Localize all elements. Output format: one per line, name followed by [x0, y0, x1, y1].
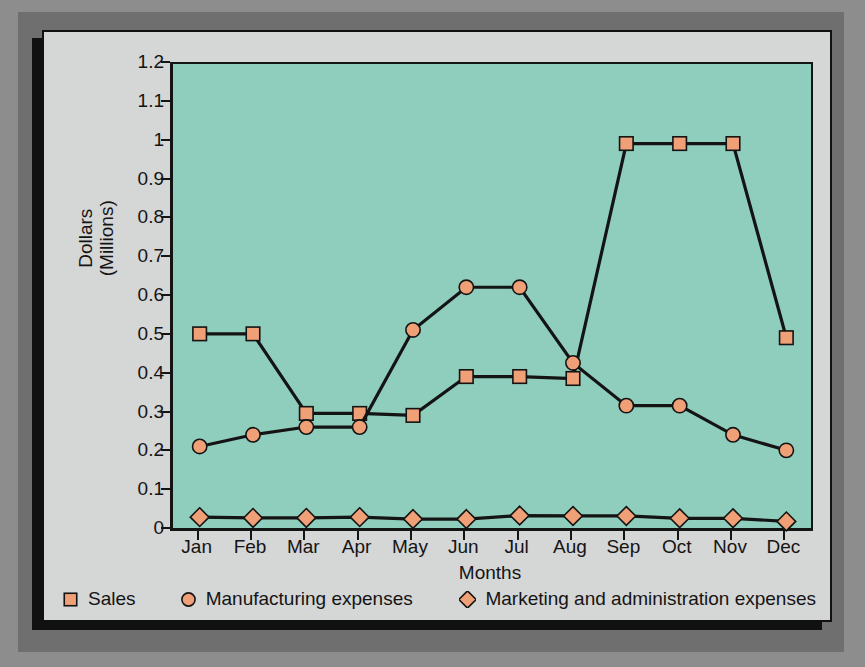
x-tick-label-mar: Mar — [273, 536, 333, 558]
x-axis-title: Months — [170, 562, 810, 584]
data-point-marker — [404, 510, 423, 529]
legend-label: Manufacturing expenses — [206, 588, 413, 610]
data-point-marker — [620, 137, 634, 151]
y-tick-mark — [161, 449, 170, 451]
data-point-marker — [193, 327, 207, 341]
y-axis-tick-labels: 00.10.20.30.40.50.60.70.80.911.11.2 — [106, 62, 164, 528]
y-tick-label: 1.1 — [118, 90, 164, 112]
data-point-marker — [246, 428, 260, 442]
data-point-marker — [193, 439, 207, 453]
plot-area — [170, 62, 813, 531]
y-tick-mark — [161, 294, 170, 296]
data-point-marker — [297, 509, 316, 528]
diamond-marker-icon — [459, 591, 476, 608]
data-point-marker — [300, 407, 314, 421]
y-tick-mark — [161, 527, 170, 529]
legend-label: Marketing and administration expenses — [485, 588, 816, 610]
screenshot-root: Dollars (Millions) 00.10.20.30.40.50.60.… — [0, 0, 865, 667]
x-tick-label-aug: Aug — [540, 536, 600, 558]
y-tick-mark — [161, 333, 170, 335]
data-point-marker — [350, 508, 369, 527]
data-point-marker — [673, 137, 687, 151]
data-point-marker — [724, 509, 743, 528]
data-point-marker — [460, 370, 474, 384]
y-tick-label: 0.3 — [118, 401, 164, 423]
x-tick-label-jun: Jun — [433, 536, 493, 558]
x-tick-label-nov: Nov — [700, 536, 760, 558]
legend-item-sales[interactable]: Sales — [62, 588, 136, 610]
data-point-marker — [566, 372, 580, 386]
data-point-marker — [246, 327, 260, 341]
data-point-marker — [780, 331, 794, 345]
data-point-marker — [299, 420, 313, 434]
data-point-marker — [779, 443, 793, 457]
data-point-marker — [353, 420, 367, 434]
data-point-marker — [244, 509, 263, 528]
y-axis-title-line1: Dollars — [75, 158, 96, 318]
data-point-marker — [566, 356, 580, 370]
y-tick-label: 0.4 — [118, 362, 164, 384]
series-line — [200, 516, 787, 522]
series-line — [200, 287, 787, 450]
x-tick-label-may: May — [380, 536, 440, 558]
data-point-marker — [726, 137, 740, 151]
data-point-marker — [406, 409, 420, 423]
x-tick-label-jan: Jan — [167, 536, 227, 558]
y-tick-label: 0 — [118, 517, 164, 539]
x-tick-label-oct: Oct — [647, 536, 707, 558]
data-point-marker — [673, 399, 687, 413]
chart-legend: SalesManufacturing expensesMarketing and… — [62, 588, 816, 610]
y-tick-mark — [161, 61, 170, 63]
y-tick-mark — [161, 411, 170, 413]
series-lines — [173, 62, 813, 528]
data-point-marker — [510, 506, 529, 525]
y-tick-label: 0.2 — [118, 439, 164, 461]
circle-marker-icon — [180, 591, 197, 608]
series-line — [200, 144, 787, 416]
series-manufacturing-expenses — [193, 280, 794, 457]
y-tick-label: 0.5 — [118, 323, 164, 345]
y-tick-label: 0.1 — [118, 478, 164, 500]
legend-item-marketing-and-administration-expenses[interactable]: Marketing and administration expenses — [459, 588, 816, 610]
data-point-marker — [459, 280, 473, 294]
y-tick-mark — [161, 100, 170, 102]
data-point-marker — [457, 510, 476, 529]
legend-label: Sales — [88, 588, 136, 610]
y-tick-label: 0.8 — [118, 206, 164, 228]
data-point-marker — [513, 280, 527, 294]
data-point-marker — [670, 509, 689, 528]
y-tick-label: 0.6 — [118, 284, 164, 306]
data-point-marker — [619, 399, 633, 413]
x-tick-label-sep: Sep — [593, 536, 653, 558]
data-point-marker — [190, 508, 209, 527]
y-tick-mark — [161, 216, 170, 218]
series-marketing-and-administration-expenses — [190, 506, 795, 531]
square-marker-icon — [62, 591, 79, 608]
data-point-marker — [513, 370, 527, 384]
x-tick-label-feb: Feb — [220, 536, 280, 558]
data-point-marker — [777, 512, 796, 531]
y-tick-mark — [161, 178, 170, 180]
plot-wrapper: Dollars (Millions) 00.10.20.30.40.50.60.… — [44, 32, 830, 620]
x-tick-label-apr: Apr — [327, 536, 387, 558]
x-axis-tick-labels: JanFebMarAprMayJunJulAugSepOctNovDec — [170, 536, 810, 562]
x-tick-label-jul: Jul — [487, 536, 547, 558]
y-tick-label: 1.2 — [118, 51, 164, 73]
y-tick-mark — [161, 488, 170, 490]
data-point-marker — [726, 428, 740, 442]
y-tick-label: 0.9 — [118, 168, 164, 190]
series-sales — [193, 137, 793, 422]
y-tick-mark — [161, 372, 170, 374]
y-tick-mark — [161, 139, 170, 141]
x-tick-label-dec: Dec — [753, 536, 813, 558]
data-point-marker — [617, 507, 636, 526]
y-tick-mark — [161, 255, 170, 257]
y-tick-label: 0.7 — [118, 245, 164, 267]
legend-item-manufacturing-expenses[interactable]: Manufacturing expenses — [180, 588, 413, 610]
chart-panel: Dollars (Millions) 00.10.20.30.40.50.60.… — [42, 30, 832, 622]
data-point-marker — [564, 507, 583, 526]
data-point-marker — [406, 323, 420, 337]
y-tick-label: 1 — [118, 129, 164, 151]
